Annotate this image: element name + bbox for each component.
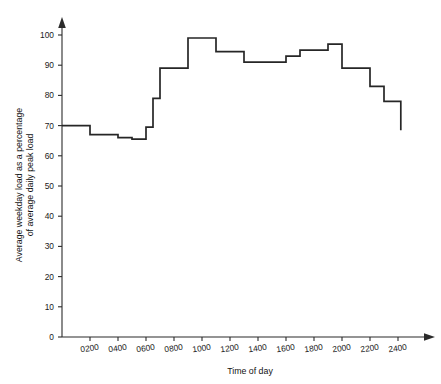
y-tick-label: 90 — [45, 60, 55, 70]
x-axis-ticks: 0200040006000800100012001400160018002000… — [80, 337, 408, 354]
x-tick-label: 1800 — [304, 342, 324, 355]
y-axis-ticks: 0102030405060708090100 — [40, 30, 62, 342]
x-tick-label: 2400 — [388, 342, 408, 355]
x-tick-label: 0400 — [108, 342, 128, 355]
y-tick-label: 70 — [45, 121, 55, 131]
x-tick-label: 0800 — [164, 342, 184, 355]
y-axis-title-line2: of average daily peak load — [25, 134, 35, 237]
x-tick-label: 0600 — [136, 342, 156, 355]
y-tick-label: 100 — [40, 30, 54, 40]
load-profile-step-chart: 0102030405060708090100 02000400060008001… — [0, 0, 441, 384]
y-tick-label: 60 — [45, 151, 55, 161]
chart-figure: 0102030405060708090100 02000400060008001… — [0, 0, 441, 384]
x-tick-label: 2200 — [360, 342, 380, 355]
y-tick-label: 80 — [45, 90, 55, 100]
x-tick-label: 2000 — [332, 342, 352, 355]
y-tick-label: 50 — [45, 181, 55, 191]
step-series-line — [62, 38, 401, 139]
x-tick-label: 1200 — [220, 342, 240, 355]
y-tick-label: 10 — [45, 302, 55, 312]
y-axis-title-line1: Average weekday load as a percentage — [14, 108, 24, 262]
x-tick-label: 1600 — [276, 342, 296, 355]
y-tick-label: 40 — [45, 211, 55, 221]
x-axis-arrow-icon — [424, 333, 435, 341]
y-axis-arrow-icon — [58, 17, 66, 28]
y-tick-label: 20 — [45, 272, 55, 282]
x-tick-label: 1000 — [192, 342, 212, 355]
x-axis-title: Time of day — [227, 366, 273, 376]
x-tick-label: 1400 — [248, 342, 268, 355]
y-tick-label: 30 — [45, 241, 55, 251]
x-tick-label: 0200 — [80, 342, 100, 355]
y-tick-label: 0 — [49, 332, 54, 342]
